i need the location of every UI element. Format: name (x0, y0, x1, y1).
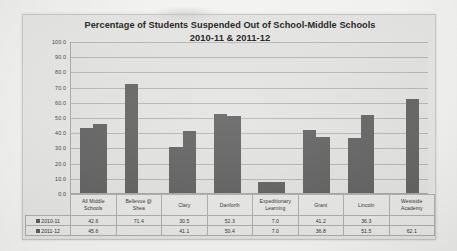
data-value-cell: 30.5 (162, 216, 208, 226)
y-axis-tick-label: 10.0 (55, 176, 66, 182)
data-value-cell: 41.2 (298, 216, 344, 226)
y-axis-tick-label: 90.0 (55, 54, 66, 60)
data-value-cell: 41.1 (162, 226, 208, 236)
bar (406, 99, 419, 193)
bar (303, 130, 316, 193)
data-value-cell: 36.3 (344, 216, 390, 226)
data-value-cell: 45.6 (71, 226, 117, 236)
bar-group (339, 42, 384, 193)
data-value-cell: 62.1 (389, 226, 435, 236)
bar-group (294, 42, 339, 193)
bar-group (160, 42, 205, 193)
legend-series-name: 2011-12 (41, 228, 60, 234)
category-label-cell: Grant (298, 195, 344, 216)
bar-pair (214, 42, 241, 193)
legend-series-name: 2010-11 (41, 218, 60, 224)
category-label-cell: WestsideAcademy (389, 195, 435, 216)
bar-pair (169, 42, 196, 193)
bar (348, 138, 361, 193)
bar-pair (80, 42, 107, 193)
y-axis-tick-label: 60.0 (55, 100, 66, 106)
bar-pair (392, 42, 419, 193)
data-value-cell: 52.3 (207, 216, 253, 226)
data-table-body: All MiddleSchoolsBellevue @SheaClaryDanf… (26, 195, 435, 236)
category-label-cell: Lincoln (344, 195, 390, 216)
table-corner-cell (26, 195, 71, 216)
bar (93, 124, 106, 193)
bar (316, 137, 329, 193)
bar-group (116, 42, 161, 193)
bar (272, 182, 285, 193)
bar-groups (71, 42, 428, 193)
chart-title-block: Percentage of Students Suspended Out of … (23, 19, 437, 44)
table-row: 2010-1142.671.430.552.37.041.236.3 (26, 216, 435, 226)
y-axis-tick-label: 50.0 (55, 115, 66, 121)
bar (125, 84, 138, 193)
category-label-cell: Danforth (207, 195, 253, 216)
bar (80, 128, 93, 193)
bar-group (205, 42, 250, 193)
legend-entry: 2011-12 (26, 226, 71, 236)
data-value-cell (116, 226, 162, 236)
data-value-cell: 50.4 (207, 226, 253, 236)
bar (227, 116, 240, 193)
data-value-cell: 42.6 (71, 216, 117, 226)
data-value-cell: 7.0 (253, 216, 299, 226)
category-label-cell: ExpeditionaryLearning (253, 195, 299, 216)
category-label-cell: Clary (162, 195, 208, 216)
chart-subtitle: 2010-11 & 2011-12 (23, 32, 437, 45)
legend-swatch-icon (36, 229, 40, 233)
bar-group (383, 42, 428, 193)
data-table: All MiddleSchoolsBellevue @SheaClaryDanf… (25, 194, 435, 236)
bar-pair (348, 42, 375, 193)
y-axis-tick-label: 70.0 (55, 85, 66, 91)
bar-pair (258, 42, 285, 193)
chart-panel: Percentage of Students Suspended Out of … (22, 14, 436, 240)
data-value-cell: 71.4 (116, 216, 162, 226)
y-axis-tick-label: 40.0 (55, 130, 66, 136)
bar-pair (303, 42, 330, 193)
bar (258, 182, 271, 193)
bar-pair (125, 42, 152, 193)
category-label-cell: All MiddleSchools (71, 195, 117, 216)
table-row: 2011-1245.641.150.47.036.851.562.1 (26, 226, 435, 236)
bar (169, 147, 182, 193)
chart-screenshot: Percentage of Students Suspended Out of … (0, 0, 457, 251)
bar (361, 115, 374, 193)
legend-swatch-icon (36, 219, 40, 223)
bar-group (71, 42, 116, 193)
y-axis-tick-label: 80.0 (55, 69, 66, 75)
y-axis-tick-label: 30.0 (55, 145, 66, 151)
plot-wrapper: 100.090.080.070.060.050.040.030.020.010.… (70, 42, 428, 194)
data-value-cell: 7.0 (253, 226, 299, 236)
bar-group (250, 42, 295, 193)
legend-entry: 2010-11 (26, 216, 71, 226)
category-label-cell: Bellevue @Shea (116, 195, 162, 216)
data-value-cell: 36.8 (298, 226, 344, 236)
y-axis-tick-label: 20.0 (55, 161, 66, 167)
plot-area (70, 42, 428, 194)
bar (183, 131, 196, 193)
table-row: All MiddleSchoolsBellevue @SheaClaryDanf… (26, 195, 435, 216)
bar (214, 114, 227, 193)
chart-title: Percentage of Students Suspended Out of … (23, 19, 437, 32)
data-value-cell (389, 216, 435, 226)
data-value-cell: 51.5 (344, 226, 390, 236)
